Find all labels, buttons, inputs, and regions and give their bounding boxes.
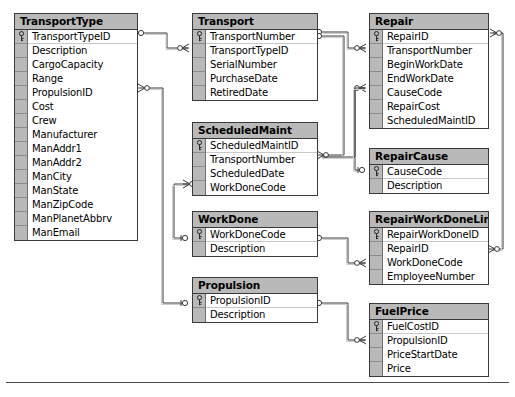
field-row[interactable]: RepairID xyxy=(370,30,488,44)
field-row[interactable]: ManCity xyxy=(15,170,137,184)
field-row[interactable]: ScheduledDate xyxy=(193,167,317,181)
field-row[interactable]: RepairCost xyxy=(370,100,488,114)
field-gutter xyxy=(15,114,28,128)
entity-field-list-propulsion: PropulsionIDDescription xyxy=(193,294,317,322)
entity-title-fuelprice[interactable]: FuelPrice xyxy=(370,304,488,320)
field-row[interactable]: Description xyxy=(193,308,317,322)
field-name: ManPlanetAbbrv xyxy=(28,212,137,226)
field-row[interactable]: PurchaseDate xyxy=(193,72,317,86)
field-gutter xyxy=(370,256,383,270)
field-row[interactable]: PropulsionID xyxy=(15,86,137,100)
er-diagram-canvas: .wire { fill: none; stroke: #3a3a3a; str… xyxy=(0,0,515,397)
field-row[interactable]: ManZipCode xyxy=(15,198,137,212)
field-gutter xyxy=(370,179,383,193)
field-name: TransportNumber xyxy=(383,44,488,58)
field-row[interactable]: ManState xyxy=(15,184,137,198)
entity-workdone[interactable]: WorkDoneWorkDoneCodeDescription xyxy=(192,211,318,257)
relationship-propulsion-fuelprice xyxy=(315,300,366,344)
field-row[interactable]: TransportNumber xyxy=(193,30,317,44)
field-name: RepairID xyxy=(383,30,488,44)
field-row[interactable]: PropulsionID xyxy=(370,334,488,348)
entity-title-repairworkdonelink[interactable]: RepairWorkDoneLink xyxy=(370,212,488,228)
entity-scheduledmaint[interactable]: ScheduledMaintScheduledMaintIDTransportN… xyxy=(192,122,318,196)
entity-title-propulsion[interactable]: Propulsion xyxy=(193,278,317,294)
entity-field-list-transport: TransportNumberTransportTypeIDSerialNumb… xyxy=(193,30,317,100)
field-row[interactable]: CauseCode xyxy=(370,86,488,100)
entity-fuelprice[interactable]: FuelPriceFuelCostIDPropulsionIDPriceStar… xyxy=(369,303,489,377)
field-row[interactable]: EndWorkDate xyxy=(370,72,488,86)
field-row[interactable]: ScheduledMaintID xyxy=(370,114,488,128)
field-row[interactable]: Description xyxy=(370,179,488,193)
entity-field-list-repaircause: CauseCodeDescription xyxy=(370,165,488,193)
field-name: TransportNumber xyxy=(206,30,317,44)
field-row[interactable]: RepairID xyxy=(370,242,488,256)
primary-key-icon xyxy=(196,140,203,151)
field-name: Crew xyxy=(28,114,137,128)
field-row[interactable]: RepairWorkDoneID xyxy=(370,228,488,242)
field-gutter xyxy=(370,86,383,100)
field-row[interactable]: Crew xyxy=(15,114,137,128)
entity-transporttype[interactable]: TransportTypeTransportTypeIDDescriptionC… xyxy=(14,13,138,241)
field-name: PropulsionID xyxy=(383,334,488,348)
field-gutter xyxy=(15,198,28,212)
entity-transport[interactable]: TransportTransportNumberTransportTypeIDS… xyxy=(192,13,318,101)
entity-title-transporttype[interactable]: TransportType xyxy=(15,14,137,30)
entity-propulsion[interactable]: PropulsionPropulsionIDDescription xyxy=(192,277,318,323)
primary-key-icon xyxy=(196,295,203,306)
entity-title-workdone[interactable]: WorkDone xyxy=(193,212,317,228)
entity-title-scheduledmaint[interactable]: ScheduledMaint xyxy=(193,123,317,139)
entity-repairworkdonelink[interactable]: RepairWorkDoneLinkRepairWorkDoneIDRepair… xyxy=(369,211,489,285)
field-gutter xyxy=(193,58,206,72)
field-row[interactable]: ScheduledMaintID xyxy=(193,139,317,153)
field-row[interactable]: ManEmail xyxy=(15,226,137,240)
field-name: Manufacturer xyxy=(28,128,137,142)
field-row[interactable]: PriceStartDate xyxy=(370,348,488,362)
field-row[interactable]: TransportNumber xyxy=(193,153,317,167)
field-row[interactable]: FuelCostID xyxy=(370,320,488,334)
field-row[interactable]: TransportTypeID xyxy=(15,30,137,44)
field-row[interactable]: Range xyxy=(15,72,137,86)
entity-title-repair[interactable]: Repair xyxy=(370,14,488,30)
field-gutter xyxy=(370,44,383,58)
field-row[interactable]: SerialNumber xyxy=(193,58,317,72)
field-row[interactable]: ManAddr2 xyxy=(15,156,137,170)
field-row[interactable]: CargoCapacity xyxy=(15,58,137,72)
field-gutter xyxy=(15,156,28,170)
field-name: RepairWorkDoneID xyxy=(383,228,488,242)
footer-divider xyxy=(6,382,509,383)
field-row[interactable]: ManAddr1 xyxy=(15,142,137,156)
entity-title-transport[interactable]: Transport xyxy=(193,14,317,30)
field-gutter xyxy=(15,212,28,226)
field-gutter xyxy=(370,242,383,256)
field-name: EmployeeNumber xyxy=(383,270,488,284)
field-row[interactable]: WorkDoneCode xyxy=(193,228,317,242)
entity-repaircause[interactable]: RepairCauseCauseCodeDescription xyxy=(369,148,489,194)
field-gutter xyxy=(15,170,28,184)
field-row[interactable]: Price xyxy=(370,362,488,376)
field-name: CargoCapacity xyxy=(28,58,137,72)
field-row[interactable]: TransportTypeID xyxy=(193,44,317,58)
field-row[interactable]: RetiredDate xyxy=(193,86,317,100)
field-name: ManCity xyxy=(28,170,137,184)
field-row[interactable]: Cost xyxy=(15,100,137,114)
field-row[interactable]: BeginWorkDate xyxy=(370,58,488,72)
field-name: FuelCostID xyxy=(383,320,488,334)
field-gutter xyxy=(193,44,206,58)
field-row[interactable]: TransportNumber xyxy=(370,44,488,58)
field-row[interactable]: Description xyxy=(193,242,317,256)
entity-title-repaircause[interactable]: RepairCause xyxy=(370,149,488,165)
field-name: ScheduledMaintID xyxy=(206,139,317,153)
field-gutter xyxy=(15,128,28,142)
field-row[interactable]: CauseCode xyxy=(370,165,488,179)
field-row[interactable]: WorkDoneCode xyxy=(193,181,317,195)
field-row[interactable]: Description xyxy=(15,44,137,58)
field-name: Price xyxy=(383,362,488,376)
field-row[interactable]: ManPlanetAbbrv xyxy=(15,212,137,226)
field-row[interactable]: PropulsionID xyxy=(193,294,317,308)
field-row[interactable]: WorkDoneCode xyxy=(370,256,488,270)
field-gutter xyxy=(370,334,383,348)
field-row[interactable]: EmployeeNumber xyxy=(370,270,488,284)
field-row[interactable]: Manufacturer xyxy=(15,128,137,142)
entity-repair[interactable]: RepairRepairIDTransportNumberBeginWorkDa… xyxy=(369,13,489,129)
field-name: Description xyxy=(383,179,488,193)
